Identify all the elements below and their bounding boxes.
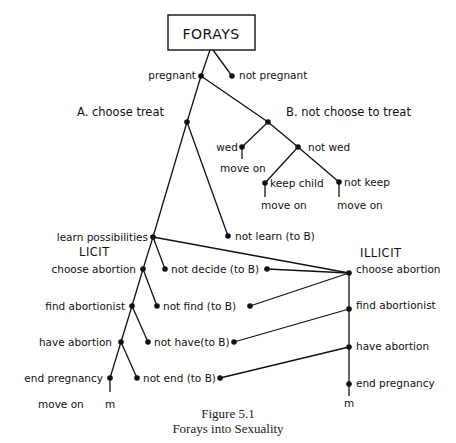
label-not-keep-move-on: move on [337,199,383,211]
label-licit-find-abortionist: find abortionist [45,300,125,312]
label-wed: wed [216,141,238,153]
label-illicit-header: ILLICIT [360,246,402,260]
label-branch-a: A. choose treat [77,105,164,119]
label-not-have: not have(to B) [154,336,230,348]
decision-tree-diagram: FORAYS [0,0,456,443]
label-illicit-choose-abortion: choose abortion [356,263,441,275]
label-not-pregnant: not pregnant [239,69,307,81]
label-not-find: not find (to B) [163,300,236,312]
label-not-decide: not decide (to B) [171,263,259,275]
label-illicit-have-abortion: have abortion [356,340,429,352]
label-branch-b: B. not choose to treat [286,105,411,119]
label-keep-move-on: move on [261,199,307,211]
label-licit-end-pregnancy: end pregnancy [24,372,103,384]
figure-title: Forays into Sexuality [0,421,456,437]
label-not-wed: not wed [308,141,350,153]
label-illicit-find-abortionist: find abortionist [356,299,436,311]
label-licit-header: LICIT [79,245,110,259]
root-label: FORAYS [182,26,239,42]
figure-number: Figure 5.1 [0,406,456,422]
label-not-learn: not learn (to B) [235,230,315,242]
label-licit-have-abortion: have abortion [39,336,112,348]
label-pregnant: pregnant [148,69,196,81]
label-not-end: not end (to B) [143,372,216,384]
label-keep-child: keep child [270,177,324,189]
label-licit-choose-abortion: choose abortion [52,263,137,275]
label-not-keep: not keep [344,176,390,188]
label-learn-possibilities: learn possibilities [57,231,148,243]
label-wed-move-on: move on [220,162,266,174]
label-illicit-end-pregnancy: end pregnancy [356,377,435,389]
